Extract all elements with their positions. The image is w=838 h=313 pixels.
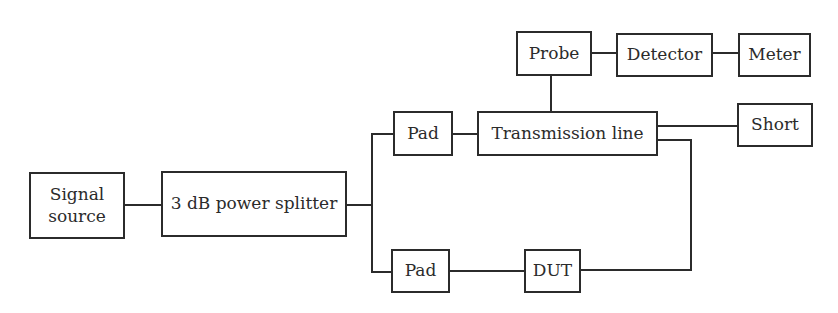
transmission-line-label: Transmission line bbox=[491, 123, 643, 144]
pad-bottom-label: Pad bbox=[405, 260, 437, 281]
dut-label: DUT bbox=[533, 260, 572, 281]
power-splitter-block: 3 dB power splitter bbox=[161, 171, 347, 237]
detector-block: Detector bbox=[616, 33, 713, 77]
detector-label: Detector bbox=[627, 44, 702, 65]
block-diagram: Signal source 3 dB power splitter Pad Tr… bbox=[0, 0, 838, 313]
wire-dut-loop-to-transmission-line bbox=[580, 140, 691, 270]
meter-label: Meter bbox=[748, 44, 801, 65]
short-block: Short bbox=[737, 103, 813, 147]
short-label: Short bbox=[751, 114, 799, 135]
probe-label: Probe bbox=[529, 43, 580, 64]
power-splitter-label: 3 dB power splitter bbox=[171, 193, 338, 214]
pad-top-block: Pad bbox=[393, 111, 453, 156]
pad-top-label: Pad bbox=[407, 123, 439, 144]
wire-bus-to-pads bbox=[372, 134, 393, 272]
dut-block: DUT bbox=[524, 249, 581, 293]
meter-block: Meter bbox=[738, 33, 811, 77]
signal-source-label: Signal source bbox=[48, 184, 106, 227]
pad-bottom-block: Pad bbox=[391, 249, 450, 293]
signal-source-block: Signal source bbox=[29, 172, 125, 239]
transmission-line-block: Transmission line bbox=[477, 111, 658, 156]
probe-block: Probe bbox=[516, 31, 592, 76]
